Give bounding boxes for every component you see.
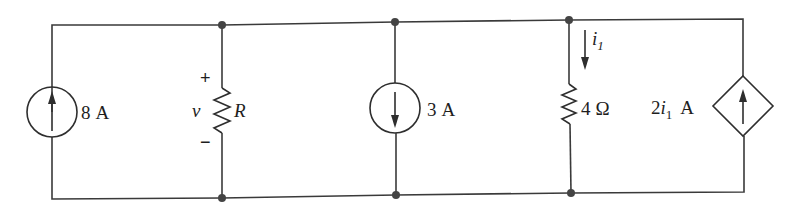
- node-dot: [565, 16, 573, 24]
- source-3a-label: 3A: [427, 99, 456, 120]
- node-dot: [391, 18, 399, 26]
- source-8a-label: 8A: [81, 102, 110, 123]
- node-dot: [567, 189, 575, 197]
- resistor-zigzag-icon: [562, 84, 576, 124]
- bottom-wire: [52, 136, 744, 199]
- resistor-zigzag-icon: [214, 88, 230, 133]
- arrowhead-down-icon: [391, 115, 399, 128]
- current-arrowhead-icon: [581, 57, 589, 70]
- circuit-diagram: 8A + v R − 3A 4Ω i1 2i1A: [0, 0, 793, 218]
- plus-sign: +: [200, 68, 211, 88]
- minus-sign: −: [200, 132, 211, 152]
- resistor-4-label: 4Ω: [581, 98, 610, 119]
- node-dot: [392, 191, 400, 199]
- top-wire: [52, 19, 743, 112]
- node-dot: [218, 194, 226, 202]
- current-label-i1: i1: [592, 28, 604, 53]
- resistor-r-label: R: [233, 100, 246, 121]
- resistor-r: + v R −: [192, 25, 246, 198]
- current-source-3a: 3A: [370, 22, 456, 195]
- voltage-label-v: v: [192, 100, 201, 121]
- arrowhead-up-icon: [739, 89, 747, 102]
- resistor-4-ohm: 4Ω i1: [562, 20, 610, 193]
- arrowhead-up-icon: [48, 91, 56, 104]
- current-source-8a: 8A: [27, 87, 110, 137]
- dependent-current-source: 2i1A: [651, 76, 773, 136]
- dependent-source-label: 2i1A: [651, 97, 694, 122]
- node-dot: [218, 21, 226, 29]
